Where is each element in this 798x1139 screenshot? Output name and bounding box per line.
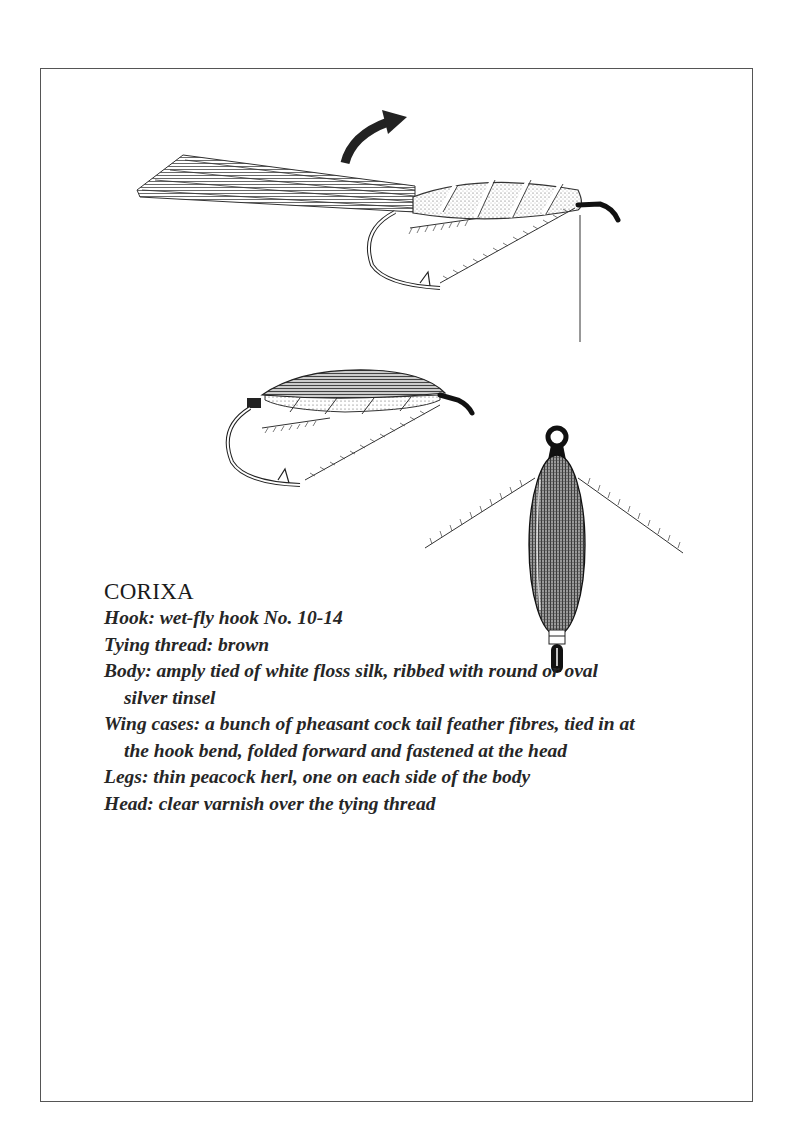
fold-forward-arrow-icon [345, 110, 407, 163]
recipe-wing-cases: Wing cases: a bunch of pheasant cock tai… [104, 711, 649, 764]
recipe-head: Head: clear varnish over the tying threa… [104, 791, 664, 818]
recipe-hook: Hook: wet-fly hook No. 10-14 [104, 605, 664, 632]
recipe-legs: Legs: thin peacock herl, one on each sid… [104, 764, 624, 791]
step-1-illustration [130, 100, 650, 350]
recipe-body: Body: amply tied of white floss silk, ri… [104, 658, 644, 711]
pheasant-fibres [137, 155, 415, 212]
silk-body [413, 180, 582, 219]
recipe-tying-thread: Tying thread: brown [104, 632, 664, 659]
fly-recipe: CORIXA Hook: wet-fly hook No. 10-14 Tyin… [104, 578, 664, 817]
recipe-title: CORIXA [104, 578, 664, 605]
